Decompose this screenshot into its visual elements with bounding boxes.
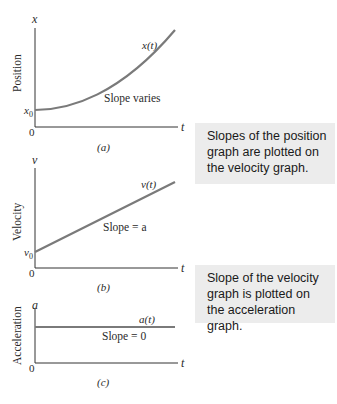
velocity-curve-label: v(t): [141, 178, 157, 191]
acceleration-graph: a t 0 a(t) Slope = 0 Acceleration (c): [11, 298, 185, 389]
acceleration-curve-label: a(t): [139, 313, 155, 326]
velocity-caption: (b): [97, 281, 110, 294]
position-t-symbol: t: [181, 120, 185, 134]
acceleration-y-symbol: a: [32, 298, 38, 312]
position-y-symbol: x: [31, 12, 38, 26]
position-ylabel: Position: [11, 54, 23, 92]
velocity-slope-note: Slope = a: [103, 221, 147, 234]
velocity-line: [35, 182, 175, 252]
velocity-graph: v t 0 v0 v(t) Slope = a Velocity (b): [11, 153, 185, 294]
acceleration-origin: 0: [29, 362, 35, 374]
acceleration-t-symbol: t: [181, 356, 185, 370]
position-intercept: x0: [23, 104, 33, 119]
position-origin: 0: [29, 126, 35, 138]
velocity-intercept: v0: [24, 246, 33, 261]
callout-position-to-velocity: Slopes of the position graph are plotted…: [195, 123, 335, 184]
velocity-t-symbol: t: [181, 261, 185, 275]
velocity-ylabel: Velocity: [11, 202, 24, 241]
acceleration-ylabel: Acceleration: [11, 306, 23, 365]
position-curve-label: x(t): [141, 39, 158, 52]
velocity-y-symbol: v: [32, 153, 38, 167]
position-slope-note: Slope varies: [104, 92, 161, 105]
kinematics-diagram: x t 0 x0 x(t) Slope varies Position (a) …: [0, 0, 337, 404]
callout-velocity-to-acceleration: Slope of the velocity graph is plotted o…: [195, 265, 335, 323]
position-graph: x t 0 x0 x(t) Slope varies Position (a): [11, 12, 185, 154]
acceleration-caption: (c): [97, 376, 110, 389]
velocity-origin: 0: [29, 267, 35, 279]
acceleration-slope-note: Slope = 0: [102, 330, 146, 343]
position-caption: (a): [97, 141, 110, 154]
